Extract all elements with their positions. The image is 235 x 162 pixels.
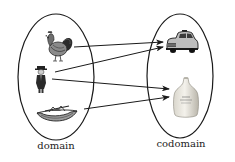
rooster-icon: [45, 31, 72, 61]
car-icon: [166, 30, 198, 53]
jug-icon: [174, 77, 199, 117]
boat-icon: [37, 106, 77, 121]
domain-label: domain: [37, 140, 75, 151]
arrow-man-to-jug: [52, 79, 169, 89]
arrow-boat-to-jug: [84, 97, 169, 109]
man-icon: [35, 66, 47, 93]
codomain-label: codomain: [156, 138, 205, 149]
